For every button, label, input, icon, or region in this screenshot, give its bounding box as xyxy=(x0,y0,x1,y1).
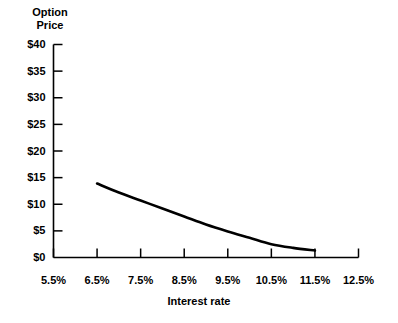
y-axis-tick-label: $35 xyxy=(2,66,46,77)
y-axis-tick-label: $40 xyxy=(2,39,46,50)
y-axis-title-line-1: Option xyxy=(14,6,86,19)
y-axis-tick-label: $0 xyxy=(2,252,46,263)
y-axis-title-line-2: Price xyxy=(14,19,86,32)
data-line-0 xyxy=(97,183,315,250)
chart-figure: Option Price $0$5$10$15$20$25$30$35$40 5… xyxy=(0,0,398,323)
y-axis-tick-label: $15 xyxy=(2,172,46,183)
y-axis-title: Option Price xyxy=(14,6,86,32)
y-axis-tick-label: $30 xyxy=(2,92,46,103)
y-axis-tick-label: $10 xyxy=(2,199,46,210)
x-axis-tick-label: 12.5% xyxy=(331,275,387,286)
y-axis-tick-label: $25 xyxy=(2,119,46,130)
x-axis-title: Interest rate xyxy=(0,295,398,307)
y-axis-tick-label: $20 xyxy=(2,146,46,157)
data-series-group xyxy=(97,183,315,250)
y-axis-tick-label: $5 xyxy=(2,225,46,236)
